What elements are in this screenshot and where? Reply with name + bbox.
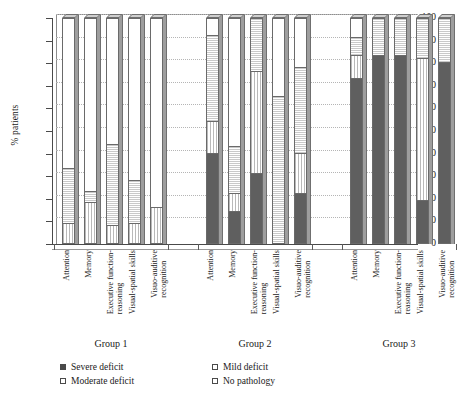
bar[interactable] [350,18,363,244]
category-label: Visuo-auditive recognition [151,250,168,298]
bar-segment-moderate[interactable] [206,122,219,154]
bar-segment-none[interactable] [206,18,219,36]
bar-segment-moderate[interactable] [106,226,119,244]
legend-label: No pathology [223,376,275,386]
bar-side-face [285,14,289,244]
category-label: Attention [207,250,216,281]
bar[interactable] [272,18,285,244]
bar-segment-severe[interactable] [250,174,263,244]
bar-segment-mild[interactable] [350,38,363,56]
bar-side-face [141,14,145,244]
bar-segment-moderate[interactable] [150,208,163,244]
category-label: Visual-spatial skills [417,250,426,314]
bar-segment-severe[interactable] [372,56,385,244]
bar-segment-mild[interactable] [394,18,407,56]
legend-swatch-icon [60,364,66,370]
bar-segment-none[interactable] [106,18,119,145]
bar-segment-mild[interactable] [62,169,75,223]
group-separator [168,244,169,250]
bar-side-face [163,14,167,244]
bar-segment-none[interactable] [84,18,97,192]
y-axis-tick-mark [46,131,52,132]
bar-segment-mild[interactable] [106,145,119,226]
bar-segment-moderate[interactable] [350,56,363,79]
category-label: Attention [63,250,72,281]
bar[interactable] [416,18,429,244]
bar-segment-none[interactable] [128,18,141,181]
bar-segment-mild[interactable] [250,18,263,72]
bar-segment-mild[interactable] [294,68,307,154]
bar-segment-mild[interactable] [228,147,241,194]
bar[interactable] [150,18,163,244]
bar-side-face [451,14,455,244]
bar-segment-mild[interactable] [128,181,141,224]
bar-side-face [407,14,411,244]
bar-segment-none[interactable] [350,18,363,38]
bar-segment-moderate[interactable] [128,224,141,244]
bar-segment-mild[interactable] [438,18,451,63]
y-axis-tick-mark [46,199,52,200]
category-label: Visuo-auditive recognition [439,250,456,298]
bar[interactable] [62,18,75,244]
bar[interactable] [250,18,263,244]
legend-item[interactable]: Severe deficit [60,362,124,372]
bar[interactable] [206,18,219,244]
bar-segment-mild[interactable] [372,18,385,56]
bar[interactable] [128,18,141,244]
legend-label: Mild deficit [223,362,268,372]
bar-side-face [363,14,367,244]
bar-segment-mild[interactable] [84,192,97,203]
bar[interactable] [294,18,307,244]
bar-segment-none[interactable] [150,18,163,208]
category-label: Attention [351,250,360,281]
bar[interactable] [84,18,97,244]
group-label: Group 1 [66,338,156,349]
y-axis-tick-mark [46,221,52,222]
category-label: Memory [85,250,94,278]
bar-segment-severe[interactable] [416,201,429,244]
legend-item[interactable]: Moderate deficit [60,376,134,386]
legend-swatch-icon [212,364,218,370]
bar-segment-severe[interactable] [438,63,451,244]
bar-segment-moderate[interactable] [228,194,241,212]
plot-area [56,18,418,244]
bar-segment-none[interactable] [272,18,285,97]
group-separator [342,244,343,250]
bar[interactable] [372,18,385,244]
bar-side-face [119,14,123,244]
bar-segment-severe[interactable] [394,56,407,244]
legend-swatch-icon [60,378,66,384]
bar-segment-mild[interactable] [206,36,219,122]
bar-segment-severe[interactable] [350,79,363,244]
bar-segment-moderate[interactable] [416,59,429,201]
bar-segment-moderate[interactable] [84,203,97,244]
bar-segment-moderate[interactable] [62,224,75,244]
bar-segment-severe[interactable] [206,154,219,244]
bar[interactable] [228,18,241,244]
y-axis-tick-mark [46,176,52,177]
y-axis-title: % patients [10,80,20,170]
bar[interactable] [106,18,119,244]
bar-segment-moderate[interactable] [250,72,263,174]
legend-label: Moderate deficit [71,376,134,386]
bar-segment-none[interactable] [228,18,241,147]
group-label: Group 2 [210,338,300,349]
legend-item[interactable]: Mild deficit [212,362,268,372]
bar-segment-mild[interactable] [416,18,429,59]
y-axis-tick-mark [46,63,52,64]
bar-segment-moderate[interactable] [294,154,307,195]
bar-side-face [241,14,245,244]
legend-item[interactable]: No pathology [212,376,275,386]
bar-segment-none[interactable] [294,18,307,68]
bar-segment-severe[interactable] [294,194,307,244]
bar[interactable] [394,18,407,244]
bar-side-face [429,14,433,244]
bar-segment-none[interactable] [62,18,75,169]
category-label: Executive function- reasoning [395,250,412,314]
bar[interactable] [438,18,451,244]
bar-segment-mild[interactable] [272,97,285,244]
bar-side-face [75,14,79,244]
y-axis-tick-mark [46,154,52,155]
bar-segment-severe[interactable] [228,212,241,244]
